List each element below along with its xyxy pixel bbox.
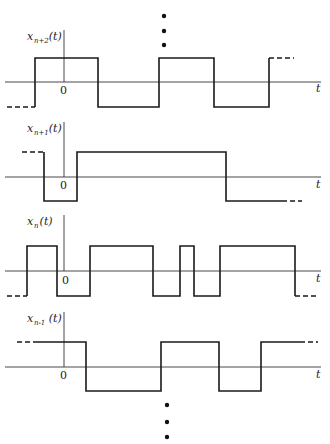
origin-label: 0 <box>60 84 67 97</box>
ellipsis-dot <box>165 403 169 407</box>
waveform-panels: xn+2(t)0txn+1(t)0txn(t)0txn-1(t)0t <box>5 30 321 391</box>
waveform-label-subscript: n+2 <box>34 37 49 45</box>
ellipsis-dot <box>162 43 166 47</box>
time-axis-label: t <box>316 272 321 285</box>
time-axis-label: t <box>316 178 321 191</box>
waveform-label-subscript: n+1 <box>34 129 49 137</box>
waveform-label-arg: (t) <box>40 215 53 228</box>
waveform-trace <box>36 342 300 391</box>
origin-label: 0 <box>60 369 67 382</box>
ellipsis-dot <box>162 14 166 18</box>
waveform-label: x <box>27 30 34 43</box>
waveform-label-subscript: n <box>34 222 39 230</box>
ellipsis-dot <box>165 435 169 439</box>
waveform-label-subscript: n-1 <box>34 319 45 327</box>
waveform-label-arg: (t) <box>49 312 62 325</box>
origin-label: 0 <box>62 274 69 287</box>
waveform-label: x <box>27 215 34 228</box>
waveform-label-arg: (t) <box>49 122 62 135</box>
ellipsis-bottom <box>165 403 169 439</box>
random-binary-waveforms-figure: xn+2(t)0txn+1(t)0txn(t)0txn-1(t)0t <box>0 0 330 444</box>
waveform-label-arg: (t) <box>49 30 62 43</box>
time-axis-label: t <box>316 82 321 95</box>
waveform-panel-1: xn+1(t)0t <box>5 122 321 201</box>
origin-label: 0 <box>60 179 67 192</box>
waveform-panel-0: xn+2(t)0t <box>5 30 321 107</box>
ellipsis-top <box>162 14 166 47</box>
ellipsis-dot <box>162 29 166 33</box>
time-axis-label: t <box>316 368 321 381</box>
waveform-label: x <box>27 312 34 325</box>
waveform-label: x <box>27 122 34 135</box>
waveform-panel-3: xn-1(t)0t <box>5 312 321 391</box>
waveform-trace <box>44 152 282 201</box>
waveform-trace <box>35 58 269 107</box>
ellipsis-dot <box>165 420 169 424</box>
waveform-panel-2: xn(t)0t <box>5 215 321 296</box>
